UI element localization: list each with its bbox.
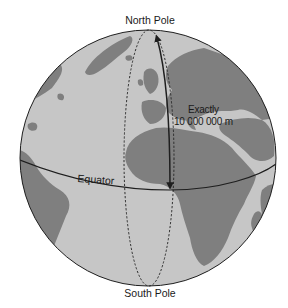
north-pole-label: North Pole (0, 15, 288, 26)
distance-label-line2: 10 000 000 m (174, 116, 233, 128)
caribbean-island (28, 122, 38, 130)
south-pole-label: South Pole (0, 288, 288, 299)
island (125, 55, 132, 61)
distance-label: Exactly 10 000 000 m (174, 104, 233, 128)
globe-svg (0, 0, 288, 308)
globe-diagram: North Pole Exactly 10 000 000 m Equator … (0, 0, 288, 308)
equator-label: Equator (77, 173, 114, 186)
asia-landmass (261, 184, 281, 240)
distance-label-line1: Exactly (174, 104, 233, 116)
